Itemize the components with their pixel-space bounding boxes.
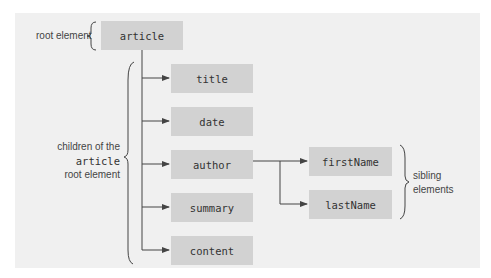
root-element-label: root element (36, 29, 92, 43)
children-annotation-line1: children of the (50, 140, 120, 154)
node-lastName: lastName (309, 190, 392, 219)
sibling-annotation: sibling elements (413, 169, 454, 197)
node-content: content (171, 236, 253, 265)
node-firstName: firstName (309, 147, 392, 176)
children-annotation: children of the article root element (50, 140, 120, 182)
sibling-annotation-line1: sibling (413, 169, 454, 183)
node-author: author (171, 150, 253, 179)
node-title: title (171, 64, 253, 93)
sibling-annotation-line2: elements (413, 183, 454, 197)
children-annotation-line3: root element (50, 168, 120, 182)
node-article: article (101, 21, 183, 50)
children-annotation-line2: article (50, 154, 120, 168)
node-date: date (171, 107, 253, 136)
node-summary: summary (171, 193, 253, 222)
